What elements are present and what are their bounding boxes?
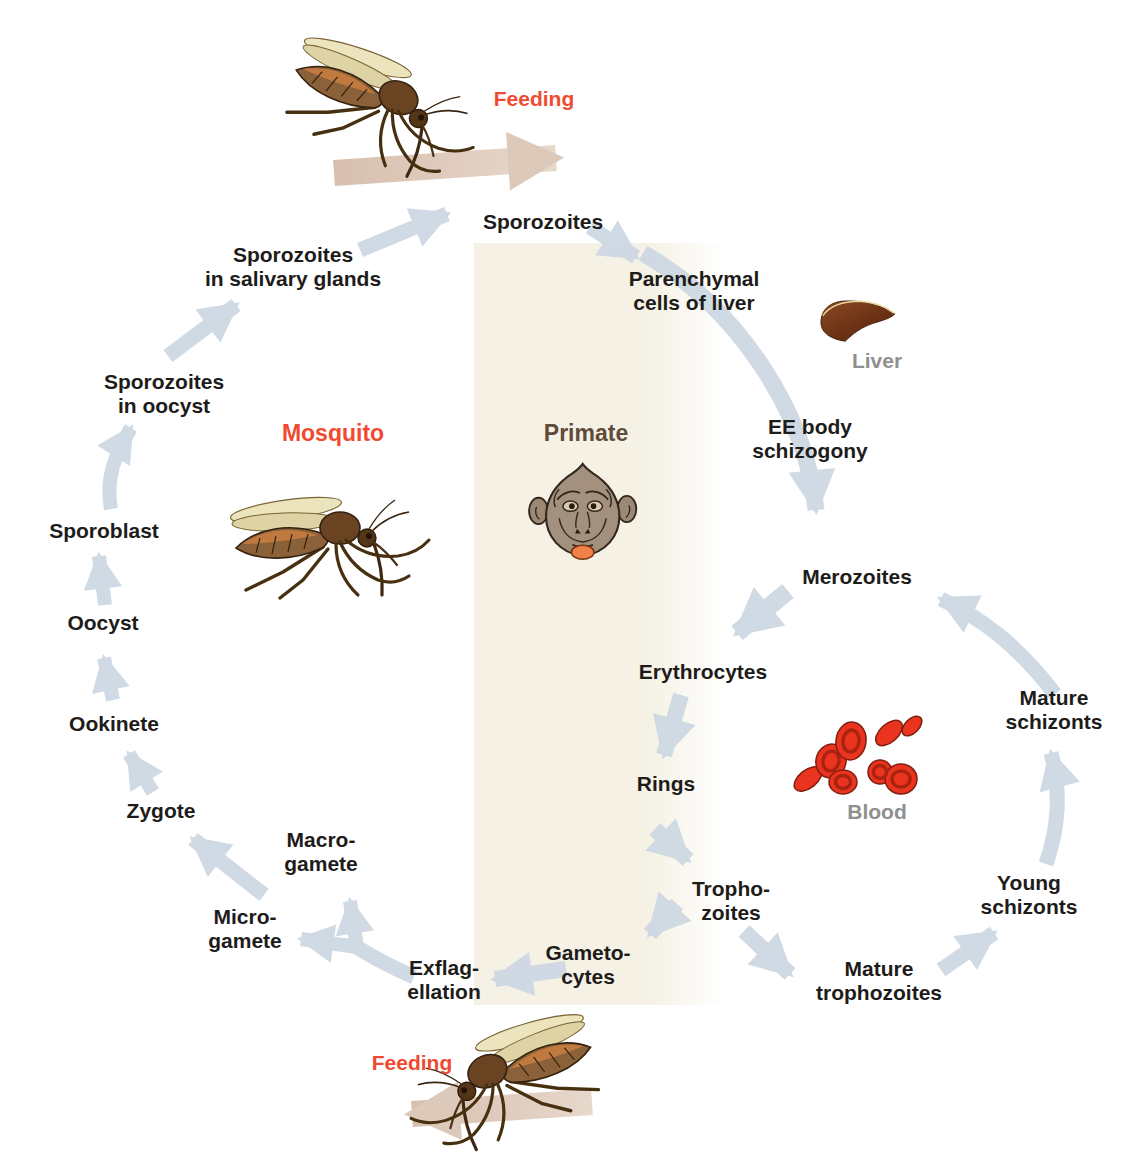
- stage-young-schizonts: Young schizonts: [981, 871, 1078, 918]
- arrow-erythrocytes-to-rings: [664, 695, 681, 755]
- arrow-exflagellation-branch-tail: [357, 947, 414, 977]
- stage-erythrocytes: Erythrocytes: [639, 660, 767, 684]
- blood-cells-image: [790, 713, 926, 796]
- stage-zygote: Zygote: [127, 799, 196, 823]
- stage-sporozoites: Sporozoites: [483, 210, 603, 234]
- stage-ee-body-schizogony: EE body schizogony: [752, 415, 868, 462]
- feeding-arrow-top: [334, 158, 556, 173]
- stage-parenchymal-cells: Parenchymal cells of liver: [629, 267, 760, 314]
- stage-mature-schizonts: Mature schizonts: [1006, 686, 1103, 733]
- arrow-branch-to-microgamete: [301, 939, 357, 947]
- stage-gametocytes: Gameto- cytes: [545, 941, 630, 988]
- liver-icon: [821, 301, 895, 341]
- arrow-young-to-mature-schizonts: [1046, 753, 1057, 864]
- diagram-artwork: [0, 0, 1142, 1176]
- arrow-ookinete-to-oocyst: [104, 658, 113, 700]
- stage-ookinete: Ookinete: [69, 712, 159, 736]
- primate-host-label: Primate: [544, 421, 628, 447]
- feeding-bottom-label: Feeding: [372, 1051, 453, 1075]
- mosquito-host-image: [229, 492, 429, 598]
- arrow-sporoblast-to-sporozoites-in-oocyst: [109, 428, 131, 509]
- stage-macrogamete: Macro- gamete: [284, 828, 358, 875]
- primate-face-image: [529, 464, 636, 559]
- stage-sporoblast: Sporoblast: [49, 519, 159, 543]
- stage-microgamete: Micro- gamete: [208, 905, 282, 952]
- arrow-oocyst-to-sporoblast: [99, 556, 105, 605]
- mosquito-feeding-bottom-image: [392, 994, 618, 1172]
- stage-sporozoites-oocyst: Sporozoites in oocyst: [104, 370, 224, 417]
- stage-merozoites: Merozoites: [802, 565, 912, 589]
- arrow-mature-trophozoites-to-young-schizonts: [941, 933, 994, 970]
- life-cycle-figure: Feeding Sporozoites Sporozoites in saliv…: [0, 0, 1142, 1176]
- arrow-merozoites-to-erythrocytes: [737, 591, 788, 633]
- arrow-rings-to-trophozoites: [655, 829, 688, 860]
- stage-trophozoites: Tropho- zoites: [692, 877, 770, 924]
- arrow-gametes-to-zygote: [193, 839, 264, 895]
- blood-label: Blood: [847, 800, 906, 824]
- stage-sporozoites-salivary: Sporozoites in salivary glands: [205, 243, 381, 290]
- arrow-trophozoites-to-mature-trophozoites: [744, 931, 790, 974]
- arrow-zygote-to-ookinete: [129, 754, 153, 792]
- arrow-oocyst-to-salivary-glands: [168, 305, 236, 356]
- stage-mature-trophozoites: Mature trophozoites: [816, 957, 942, 1004]
- feeding-top-label: Feeding: [494, 87, 575, 111]
- mosquito-host-label: Mosquito: [282, 421, 384, 447]
- arrow-trophozoites-to-gametocytes: [650, 904, 677, 934]
- stage-rings: Rings: [637, 772, 695, 796]
- liver-label: Liver: [852, 349, 902, 373]
- stage-exflagellation: Exflag- ellation: [407, 956, 481, 1003]
- stage-oocyst: Oocyst: [67, 611, 138, 635]
- arrow-mature-schizonts-to-merozoites: [941, 599, 1055, 694]
